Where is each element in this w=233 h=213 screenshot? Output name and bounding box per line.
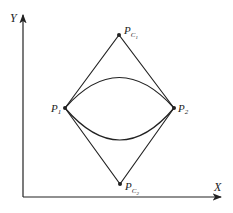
point-pc1 — [117, 33, 121, 37]
bezier-diagram: Y X PC1 P1 P2 PC2 — [0, 0, 233, 213]
label-p2: P2 — [177, 102, 189, 116]
control-polygon-top — [65, 35, 174, 108]
point-p1 — [63, 106, 67, 110]
label-p1: P1 — [50, 102, 61, 116]
label-pc2: PC2 — [124, 180, 139, 196]
y-axis-label: Y — [10, 11, 18, 25]
point-p2 — [172, 106, 176, 110]
bezier-curve-upper — [65, 78, 174, 109]
control-polygon-bottom — [65, 108, 174, 184]
x-axis-label: X — [213, 180, 222, 194]
bezier-curve-lower — [65, 108, 174, 140]
label-pc1: PC1 — [123, 24, 138, 40]
point-pc2 — [118, 182, 122, 186]
